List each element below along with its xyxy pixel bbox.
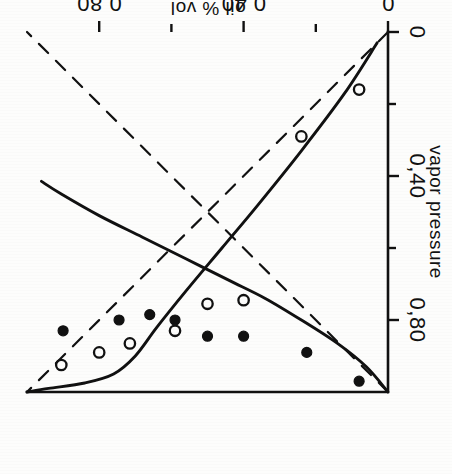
data-point-filled-circles-3 xyxy=(203,331,213,341)
x-axis-label: oil % vol xyxy=(170,0,245,19)
data-point-open-circles-2 xyxy=(238,295,248,305)
y-tick-label-4: 0,80 xyxy=(405,298,430,343)
data-point-filled-circles-4 xyxy=(170,315,180,325)
x-tick-label-4: 0,80 xyxy=(77,0,122,16)
data-point-filled-circles-5 xyxy=(145,310,155,320)
y-tick-label-0: 0 xyxy=(405,26,430,39)
data-point-open-circles-7 xyxy=(56,360,66,370)
scatter-plot: 00,400,80 00,400,80 oil % vol vapor pres… xyxy=(0,0,452,474)
y-axis-ticks xyxy=(388,32,399,320)
data-point-open-circles-3 xyxy=(202,299,212,309)
y-axis-label: vapor pressure xyxy=(426,145,447,279)
x-axis-ticks xyxy=(99,21,388,32)
data-point-open-circles-0 xyxy=(354,84,364,94)
figure-container: 00,400,80 00,400,80 oil % vol vapor pres… xyxy=(0,0,452,474)
x-tick-label-0: 0 xyxy=(382,0,395,16)
curve-dew-curve xyxy=(41,181,388,392)
rotated-page: 00,400,80 00,400,80 oil % vol vapor pres… xyxy=(0,0,452,474)
data-point-open-circles-4 xyxy=(170,326,180,336)
data-point-filled-circles-1 xyxy=(302,347,312,357)
data-point-filled-circles-2 xyxy=(239,331,249,341)
data-point-open-circles-6 xyxy=(94,347,104,357)
data-point-filled-circles-6 xyxy=(114,315,124,325)
data-point-filled-circles-7 xyxy=(58,326,68,336)
data-point-filled-circles-0 xyxy=(354,376,364,386)
data-point-open-circles-5 xyxy=(125,338,135,348)
data-point-open-circles-1 xyxy=(296,131,306,141)
